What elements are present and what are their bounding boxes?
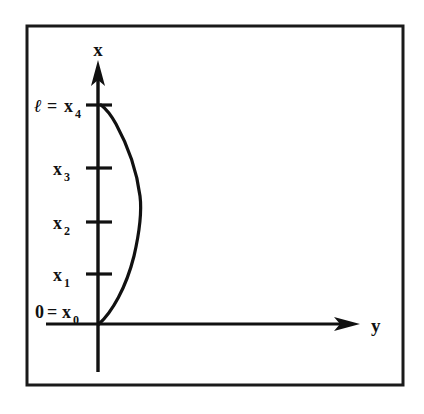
- tick-label-x4-ell: ℓ: [34, 96, 42, 116]
- origin-label-equals: =: [47, 302, 57, 322]
- tick-label-x3-sub: 3: [64, 170, 70, 184]
- tick-label-x3-base: x: [53, 159, 62, 179]
- tick-label-x2-sub: 2: [64, 224, 70, 238]
- figure-canvas: x y ℓ = x 4 x 3 x 2 x 1 0 = x 0: [0, 0, 424, 414]
- deflection-curve: [99, 105, 141, 324]
- tick-label-x1-base: x: [53, 265, 62, 285]
- tick-label-x2-base: x: [53, 213, 62, 233]
- figure-container: x y ℓ = x 4 x 3 x 2 x 1 0 = x 0: [0, 0, 424, 414]
- figure-frame-border: [27, 26, 403, 385]
- origin-label-base: x: [62, 302, 71, 322]
- tick-label-x4: ℓ = x 4: [34, 96, 81, 121]
- tick-label-x2: x 2: [53, 213, 70, 238]
- tick-label-x4-base: x: [64, 96, 73, 116]
- tick-label-x1-sub: 1: [64, 276, 70, 290]
- origin-label-sub: 0: [73, 313, 79, 327]
- tick-label-x4-equals: =: [47, 96, 57, 116]
- tick-label-x4-sub: 4: [75, 107, 81, 121]
- y-axis-label: y: [371, 315, 381, 336]
- tick-label-x3: x 3: [53, 159, 70, 184]
- origin-label-zero: 0: [35, 302, 44, 322]
- x-axis-label: x: [93, 39, 103, 60]
- tick-label-x1: x 1: [53, 265, 70, 290]
